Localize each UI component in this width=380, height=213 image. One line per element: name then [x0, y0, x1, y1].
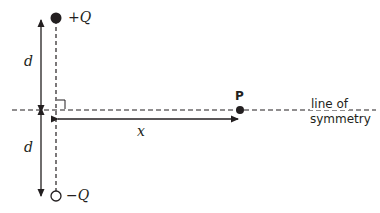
- point-p-label: P: [235, 90, 244, 102]
- point-p-dot: [236, 106, 244, 114]
- dipole-diagram: +Q −Q d d x P line of symmetry: [0, 0, 380, 213]
- negative-charge-label: −Q: [66, 188, 89, 202]
- right-angle-marker: [57, 100, 65, 109]
- symmetry-label-line2: symmetry: [310, 113, 371, 125]
- positive-charge-icon: [51, 13, 62, 24]
- lower-d-label: d: [24, 140, 33, 154]
- x-label: x: [137, 124, 145, 138]
- positive-charge-label: +Q: [68, 10, 91, 24]
- negative-charge-icon: [51, 191, 61, 201]
- upper-d-label: d: [24, 54, 33, 68]
- symmetry-label-line1: line of: [310, 98, 349, 110]
